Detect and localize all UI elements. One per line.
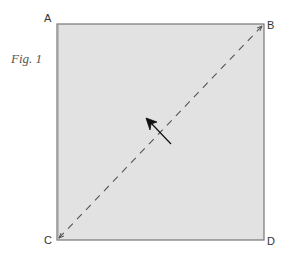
fold-diagram: A B C D Fig. 1 — [0, 0, 290, 256]
figure-caption: Fig. 1 — [11, 52, 42, 65]
diagram-canvas — [0, 0, 290, 256]
corner-label-c: C — [44, 235, 52, 246]
corner-label-d: D — [267, 236, 275, 247]
corner-label-a: A — [44, 13, 51, 24]
corner-label-b: B — [267, 20, 274, 31]
